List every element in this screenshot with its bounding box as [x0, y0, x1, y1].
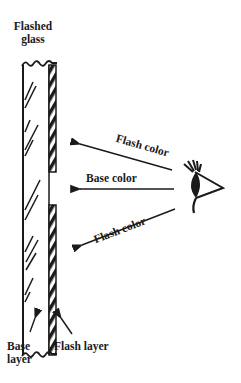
flashed-glass-diagram: Flashed glass — [0, 0, 241, 383]
flash-layer-label: Flash layer — [54, 340, 109, 353]
glass-reflection-marks — [25, 82, 40, 302]
base-layer-pointer — [30, 318, 35, 332]
base-layer-label-line-2: layer — [7, 353, 32, 366]
flash-layer-pointer — [61, 318, 72, 334]
eyelashes — [184, 160, 201, 172]
eye-icon — [184, 160, 223, 213]
base-layer — [23, 65, 49, 355]
flash-layer — [49, 65, 56, 355]
base-layer-label: Base layer — [7, 340, 32, 366]
base-layer-label-line-1: Base — [7, 340, 32, 353]
diagram-graphics — [0, 0, 241, 383]
ray-label-base: Base color — [86, 172, 137, 185]
